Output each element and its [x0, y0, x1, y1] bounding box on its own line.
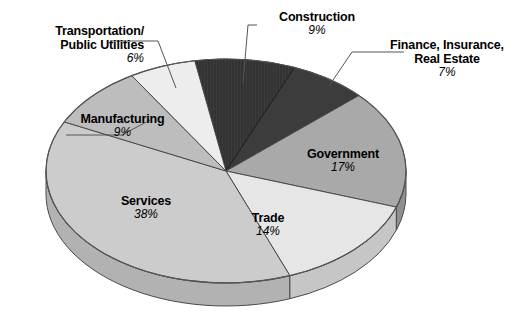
- label-manufacturing-line1: Manufacturing: [60, 112, 185, 126]
- label-government: Government 17%: [288, 147, 398, 174]
- label-transportation-public-utilities: Transportation/ Public Utilities 6%: [6, 24, 144, 65]
- label-services: Services 38%: [98, 194, 194, 221]
- label-finance-line2: Real Estate: [372, 52, 522, 66]
- label-finance-line1: Finance, Insurance,: [372, 38, 522, 52]
- label-finance-insurance-real-estate: Finance, Insurance, Real Estate 7%: [372, 38, 522, 79]
- label-trade: Trade 14%: [233, 211, 303, 238]
- label-finance-percent: 7%: [372, 66, 522, 79]
- label-trade-percent: 14%: [233, 225, 303, 238]
- pie-chart: Transportation/ Public Utilities 6% Manu…: [0, 0, 526, 321]
- label-government-percent: 17%: [288, 161, 398, 174]
- label-manufacturing: Manufacturing 9%: [60, 112, 185, 139]
- label-transportation-percent: 6%: [6, 52, 144, 65]
- label-construction: Construction 9%: [257, 10, 377, 37]
- label-construction-line1: Construction: [257, 10, 377, 24]
- label-services-percent: 38%: [98, 208, 194, 221]
- label-services-line1: Services: [98, 194, 194, 208]
- label-manufacturing-percent: 9%: [60, 126, 185, 139]
- label-trade-line1: Trade: [233, 211, 303, 225]
- label-government-line1: Government: [288, 147, 398, 161]
- label-transportation-line2: Public Utilities: [6, 38, 144, 52]
- label-construction-percent: 9%: [257, 24, 377, 37]
- label-transportation-line1: Transportation/: [6, 24, 144, 38]
